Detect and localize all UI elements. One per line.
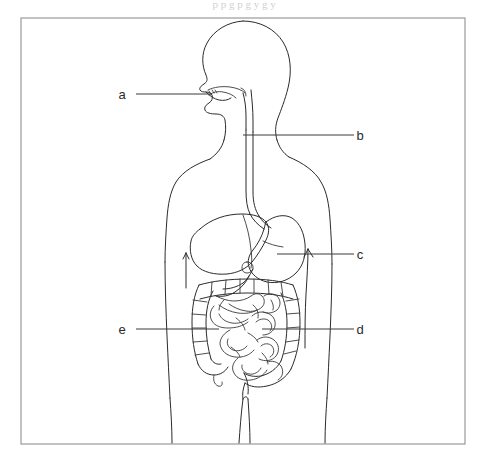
label-d: d bbox=[356, 322, 363, 337]
label-c: c bbox=[357, 247, 364, 262]
figure-canvas: p p g p g y g y bbox=[0, 0, 488, 455]
scan-artifact-text: p p g p g y g y bbox=[212, 0, 276, 10]
digestive-system-figure: p p g p g y g y bbox=[0, 0, 488, 455]
label-b: b bbox=[356, 128, 363, 143]
label-e: e bbox=[118, 322, 125, 337]
label-a: a bbox=[118, 87, 126, 102]
